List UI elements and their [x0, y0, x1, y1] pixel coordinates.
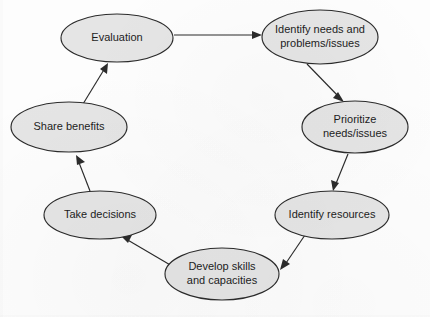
node-evaluation[interactable]: Evaluation: [61, 14, 173, 62]
edge-develop-skills-to-take-decisions: [121, 235, 172, 266]
node-label-line-2: problems/issues: [280, 37, 360, 49]
node-label: Evaluation: [91, 31, 142, 43]
edge-evaluation-to-identify-needs: [174, 31, 262, 39]
edge-identify-resources-to-develop-skills: [280, 235, 305, 270]
edge-line: [307, 64, 340, 98]
node-label-line-2: and capacities: [187, 274, 258, 286]
arrow-head-icon: [333, 92, 344, 102]
edge-line: [83, 68, 105, 104]
arrow-head-icon: [252, 31, 262, 39]
node-label-line-1: Prioritize: [334, 113, 377, 125]
node-label-line-2: needs/issues: [323, 127, 388, 139]
node-take-decisions[interactable]: Take decisions: [44, 191, 156, 239]
node-identify-resources[interactable]: Identify resources: [275, 191, 389, 239]
arrow-head-icon: [76, 155, 85, 165]
arrow-head-icon: [100, 63, 108, 74]
diagram-canvas: Evaluation Identify needs and problems/i…: [0, 0, 430, 317]
node-identify-needs[interactable]: Identify needs and problems/issues: [262, 10, 378, 64]
edge-line: [126, 239, 172, 266]
edge-line: [335, 154, 348, 186]
node-prioritize-needs[interactable]: Prioritize needs/issues: [302, 101, 408, 153]
cycle-flowchart: Evaluation Identify needs and problems/i…: [0, 0, 430, 317]
edge-share-benefits-to-evaluation: [83, 63, 108, 104]
node-label: Identify resources: [289, 208, 376, 220]
node-share-benefits[interactable]: Share benefits: [11, 102, 127, 152]
node-label-line-1: Develop skills: [188, 260, 256, 272]
node-label-line-1: Identify needs and: [275, 23, 365, 35]
edge-identify-needs-to-prioritize: [307, 64, 344, 102]
node-label: Share benefits: [34, 120, 105, 132]
edge-line: [78, 160, 90, 191]
arrow-head-icon: [331, 180, 339, 191]
edge-prioritize-to-identify-resources: [331, 154, 348, 191]
edge-line: [284, 235, 305, 266]
node-develop-skills[interactable]: Develop skills and capacities: [165, 248, 279, 300]
node-label: Take decisions: [64, 208, 137, 220]
arrow-head-icon: [280, 259, 290, 270]
edge-take-decisions-to-share-benefits: [76, 155, 90, 191]
